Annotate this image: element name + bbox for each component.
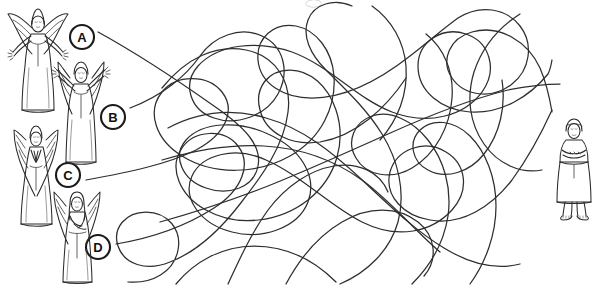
maze-path-a (98, 32, 552, 234)
marker-d-label: D (93, 240, 102, 255)
marker-c[interactable]: C (56, 163, 80, 187)
marker-a[interactable]: A (70, 25, 94, 49)
angel-c-illustration (14, 126, 58, 226)
standing-figure-illustration (557, 119, 591, 220)
maze-tangle (86, 2, 560, 284)
maze-strand-11 (372, 6, 406, 140)
marker-c-label: C (63, 168, 73, 183)
maze-strand-9 (228, 165, 388, 284)
maze-path-c (86, 10, 552, 180)
maze-strand-12 (470, 14, 542, 171)
maze-strand-3 (306, 2, 401, 284)
maze-strand-4 (352, 34, 453, 284)
marker-b[interactable]: B (101, 105, 125, 129)
worksheet-canvas: A B C D (0, 0, 610, 285)
maze-strand-2 (176, 246, 336, 284)
maze-strand-6 (168, 113, 520, 267)
marker-a-label: A (77, 30, 87, 45)
maze-path-b (130, 32, 552, 121)
maze-puzzle-page: A B C D (0, 0, 610, 285)
angel-a-illustration (8, 9, 68, 112)
marker-b-label: B (108, 110, 117, 125)
